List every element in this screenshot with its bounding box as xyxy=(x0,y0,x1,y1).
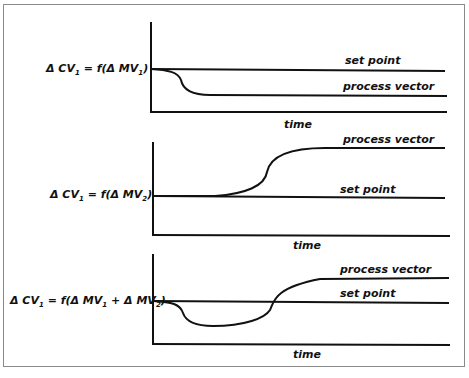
panel-3-process-vector-label: process vector xyxy=(340,263,431,276)
panel-2-equation: Δ CV1 = f(Δ MV2) xyxy=(50,188,150,203)
equation-close: ) xyxy=(161,294,166,307)
equation-function: = f(Δ MV xyxy=(44,294,103,307)
equation-close: ) xyxy=(147,188,152,201)
panel-1-equation: Δ CV1 = f(Δ MV1) xyxy=(46,62,146,77)
equation-lhs: Δ CV xyxy=(50,188,79,201)
panel-1-set-point-label: set point xyxy=(345,54,400,67)
panel-3-set-point-label: set point xyxy=(340,287,395,300)
panel-1-process-vector-label: process vector xyxy=(343,80,434,93)
equation-lhs: Δ CV xyxy=(46,62,75,75)
equation-close: ) xyxy=(143,62,148,75)
panel-1-graph xyxy=(150,22,447,113)
panel-3-time-label: time xyxy=(293,348,321,361)
panel-1-time-label: time xyxy=(284,118,312,131)
panel-2-process-vector-curve xyxy=(153,148,445,196)
panel-1-set-point-line xyxy=(151,69,445,71)
equation-lhs: Δ CV xyxy=(10,294,39,307)
panel-2-set-point-label: set point xyxy=(340,183,395,196)
panel-3-equation: Δ CV1 = f(Δ MV1 + Δ MV2) xyxy=(10,294,150,309)
panel-3-x-axis xyxy=(152,344,450,345)
panel-2-graph xyxy=(152,142,450,236)
panel-2-time-label: time xyxy=(293,239,321,252)
equation-function: = f(Δ MV xyxy=(80,62,139,75)
panel-2-process-vector-label: process vector xyxy=(343,133,434,146)
panel-2-x-axis xyxy=(152,235,450,236)
equation-plus-term: + Δ MV xyxy=(107,294,156,307)
panel-3-set-point-line xyxy=(153,301,449,303)
equation-function: = f(Δ MV xyxy=(84,188,143,201)
